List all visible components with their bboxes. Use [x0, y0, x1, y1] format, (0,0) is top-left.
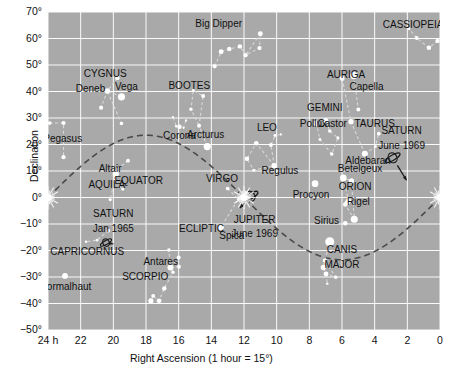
- star-dot: [374, 145, 377, 148]
- chart-label: Procyon: [293, 189, 330, 200]
- star-dot: [62, 273, 68, 279]
- y-tick-label: 0°: [0, 191, 42, 203]
- y-tick-label: 30°: [0, 111, 42, 123]
- star-dot: [151, 294, 155, 298]
- star-dot: [177, 125, 181, 129]
- x-tick-label: 2: [392, 334, 422, 346]
- chart-label: CYGNUS: [84, 68, 127, 79]
- chart-label: Antares: [143, 256, 177, 267]
- x-tick-label: 12: [229, 334, 259, 346]
- star-dot: [257, 46, 261, 50]
- star-dot: [348, 119, 353, 124]
- chart-label: Big Dipper: [195, 18, 242, 29]
- star-dot: [175, 125, 177, 127]
- star-dot: [185, 119, 187, 121]
- x-tick-label: 18: [131, 334, 161, 346]
- star-dot: [435, 39, 439, 43]
- chart-label: SATURN: [93, 208, 133, 219]
- plot-area: Big DipperCASSIOPEIACYGNUSDenebVegaBOOTE…: [48, 12, 440, 330]
- chart-label: GEMINI: [307, 102, 343, 113]
- x-tick-label: 24 h: [33, 334, 63, 346]
- y-tick-label: −20°: [0, 244, 42, 256]
- star-dot: [324, 272, 329, 277]
- star-dot: [219, 49, 224, 54]
- chart-label: Deneb: [76, 83, 106, 94]
- star-dot: [254, 141, 259, 146]
- chart-label: Altair: [99, 163, 122, 174]
- x-axis-title: Right Ascension (1 hour = 15°): [130, 352, 273, 364]
- star-dot: [252, 169, 255, 172]
- chart-label: ECLIPTIC: [179, 223, 224, 234]
- chart-label: SATURN: [381, 125, 421, 136]
- star-dot: [377, 132, 381, 136]
- chart-label: BOOTES: [168, 80, 210, 91]
- star-dot: [85, 240, 88, 243]
- y-tick-label: −10°: [0, 217, 42, 229]
- y-tick-label: 60°: [0, 32, 42, 44]
- chart-label: AURIGA: [327, 69, 366, 80]
- y-tick-label: 40°: [0, 85, 42, 97]
- chart-canvas: Big DipperCASSIOPEIACYGNUSDenebVegaBOOTE…: [48, 12, 440, 330]
- vernal-equinox-starburst: [48, 186, 60, 209]
- x-tick-label: 16: [164, 334, 194, 346]
- star-dot: [227, 47, 231, 51]
- chart-label: CASSIOPEIA: [383, 19, 440, 30]
- star-dot: [99, 106, 103, 110]
- chart-label: Sirius: [314, 215, 339, 226]
- star-dot: [172, 116, 174, 118]
- x-tick-label: 6: [327, 334, 357, 346]
- star-dot: [328, 129, 331, 132]
- star-dot: [244, 53, 248, 57]
- star-dot: [312, 180, 319, 187]
- star-chart: Big DipperCASSIOPEIACYGNUSDenebVegaBOOTE…: [0, 0, 460, 372]
- star-dot: [269, 143, 273, 147]
- x-tick-label: 4: [360, 334, 390, 346]
- star-dot: [204, 143, 211, 150]
- star-dot: [415, 36, 419, 40]
- y-tick-label: 20°: [0, 138, 42, 150]
- star-dot: [245, 157, 250, 162]
- star-dot: [336, 136, 339, 139]
- star-dot: [356, 108, 360, 112]
- star-dot: [258, 31, 263, 36]
- autumnal-equinox-starburst: [233, 186, 256, 209]
- star-dot: [126, 159, 130, 163]
- star-dot: [334, 276, 337, 279]
- chart-label: Castor: [317, 118, 347, 129]
- star-dot: [330, 152, 334, 156]
- chart-label: SCORPIO: [122, 271, 168, 282]
- chart-label: MAJOR: [325, 259, 360, 270]
- star-dot: [120, 122, 124, 126]
- star-dot: [212, 64, 216, 68]
- x-tick-label: 20: [98, 334, 128, 346]
- chart-label: June 1969: [378, 140, 425, 151]
- y-tick-label: 50°: [0, 58, 42, 70]
- chart-label: Rigel: [347, 196, 370, 207]
- y-tick-label: −40°: [0, 297, 42, 309]
- chart-label: CAPRICORNUS: [50, 246, 124, 257]
- star-dot: [319, 138, 322, 141]
- star-dot: [351, 216, 358, 223]
- chart-label: Pegasus: [48, 133, 82, 144]
- star-dot: [280, 133, 282, 135]
- y-tick-label: −30°: [0, 270, 42, 282]
- star-dot: [189, 108, 192, 111]
- star-dot: [427, 46, 431, 50]
- star-dot: [326, 282, 328, 284]
- chart-label: ORION: [339, 181, 372, 192]
- star-dot: [96, 239, 99, 242]
- x-tick-label: 10: [262, 334, 292, 346]
- star-dot: [61, 121, 65, 125]
- star-dot: [61, 155, 65, 159]
- chart-label: Regulus: [262, 165, 299, 176]
- star-dot: [343, 221, 348, 226]
- star-dot: [48, 121, 51, 125]
- star-dot: [118, 93, 125, 100]
- y-tick-label: 10°: [0, 164, 42, 176]
- vernal-equinox-starburst-right: [429, 186, 441, 209]
- star-dot: [171, 270, 175, 274]
- star-dot: [148, 298, 153, 303]
- chart-label: Capella: [350, 81, 384, 92]
- chart-label: CANIS: [327, 244, 358, 255]
- chart-label: Jan 1965: [93, 223, 135, 234]
